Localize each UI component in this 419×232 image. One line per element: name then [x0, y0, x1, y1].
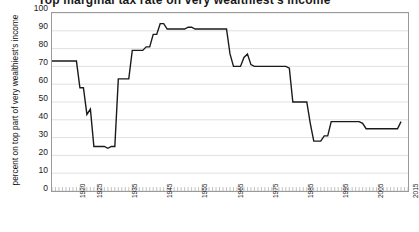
y-tick-label: 60 — [39, 75, 48, 85]
x-tick-label: 1925 — [96, 184, 103, 198]
y-tick-label: 30 — [39, 129, 48, 139]
data-line-chart — [52, 13, 408, 191]
y-tick-label: 100 — [34, 3, 48, 13]
x-axis-ticks — [52, 187, 408, 191]
x-tick-label: 1955 — [201, 184, 208, 198]
x-axis-tick-labels: 1920192519351945195519651975198519952005… — [51, 196, 409, 232]
y-tick-label: 90 — [39, 21, 48, 31]
x-tick-label: 2005 — [377, 184, 384, 198]
x-tick-label: 1985 — [307, 184, 314, 198]
y-tick-label: 40 — [39, 111, 48, 121]
y-tick-label: 20 — [39, 147, 48, 157]
x-tick-label: 1995 — [342, 184, 349, 198]
x-tick-label: 1935 — [131, 184, 138, 198]
data-series-line — [52, 24, 401, 149]
y-tick-label: 70 — [39, 57, 48, 67]
x-tick-label: 1975 — [272, 184, 279, 198]
y-tick-label: 50 — [39, 93, 48, 103]
y-tick-label: 80 — [39, 39, 48, 49]
plot-area — [51, 12, 409, 192]
y-tick-label: 10 — [39, 165, 48, 175]
y-tick-label: 0 — [43, 183, 48, 193]
page-title: Top marginal tax rate on very wealthiest… — [38, 0, 331, 7]
chart-title-cropped: Top marginal tax rate on very wealthiest… — [0, 0, 415, 9]
x-tick-label: 1965 — [237, 184, 244, 198]
y-axis-title: percent on top part of very wealthiest's… — [10, 0, 20, 200]
x-tick-label: 1920 — [79, 184, 86, 198]
gridlines — [52, 13, 408, 191]
x-tick-label: 2015 — [412, 184, 419, 198]
x-tick-label: 1945 — [166, 184, 173, 198]
y-axis-tick-labels: 1009080706050403020100 — [22, 8, 48, 192]
